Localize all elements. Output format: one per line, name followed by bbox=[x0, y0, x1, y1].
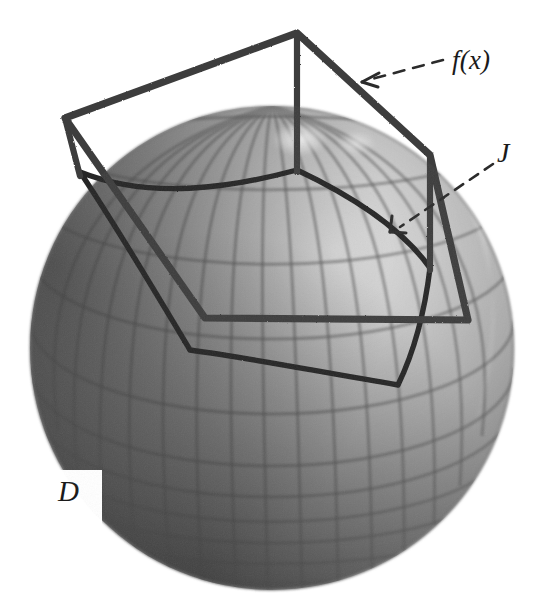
function-label: f(x) bbox=[452, 47, 490, 74]
fx-leader-line bbox=[362, 60, 443, 87]
region-label: J bbox=[497, 139, 509, 167]
j-leader-line bbox=[390, 164, 493, 233]
domain-label: D bbox=[58, 477, 79, 506]
figure-canvas: f(x) J D bbox=[0, 0, 541, 607]
